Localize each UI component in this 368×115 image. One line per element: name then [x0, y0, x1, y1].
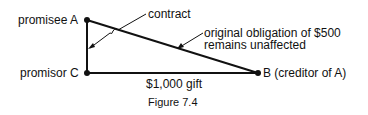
- obligation-leader-line: [180, 33, 203, 47]
- gift-label: $1,000 gift: [146, 78, 202, 91]
- contract-leader-line: [90, 14, 146, 48]
- figure-caption: Figure 7.4: [148, 96, 198, 109]
- node-a-dot: [84, 17, 90, 23]
- obligation-label-line2: remains unaffected: [204, 39, 306, 52]
- contract-arrowhead-icon: [88, 43, 95, 49]
- node-c-label: promisor C: [20, 67, 79, 80]
- contract-label: contract: [148, 8, 191, 21]
- node-b-label: B (creditor of A): [263, 67, 346, 80]
- node-a-label: promisee A: [18, 14, 78, 27]
- node-b-dot: [255, 70, 261, 76]
- node-c-dot: [84, 70, 90, 76]
